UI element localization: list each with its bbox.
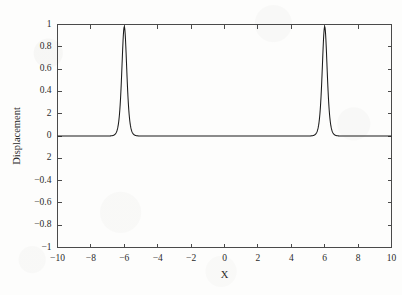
y-tick-label: −1: [41, 243, 51, 253]
y-tick-label: 2: [47, 154, 52, 164]
x-tick-label: 2: [256, 254, 261, 264]
y-tick-label: 2: [47, 109, 52, 119]
y-tick-label: −0.8: [34, 220, 51, 230]
figure-canvas: 10.80.60.4202−0.4−0.6−0.8−1−10−8−6−4−202…: [0, 0, 402, 295]
y-tick-label: −0.4: [34, 176, 51, 186]
y-tick-label: 0.4: [40, 87, 52, 97]
x-tick-label: −10: [50, 254, 65, 264]
x-tick-label: 6: [322, 254, 327, 264]
x-tick-label: 8: [356, 254, 361, 264]
x-tick-label: −2: [186, 254, 196, 264]
x-tick-label: −4: [153, 254, 163, 264]
y-tick-label: −0.6: [34, 198, 51, 208]
x-tick-label: 0: [222, 254, 227, 264]
x-axis-title: X: [221, 270, 229, 281]
y-axis-title: Displacement: [12, 107, 23, 165]
plot-svg: [0, 0, 402, 295]
x-tick-label: 10: [387, 254, 397, 264]
x-tick-label: 4: [289, 254, 294, 264]
displacement-curve: [58, 27, 392, 136]
y-tick-label: 1: [47, 20, 52, 30]
data-series-group: [58, 27, 392, 136]
y-tick-label: 0.6: [40, 64, 52, 74]
x-tick-label: −8: [86, 254, 96, 264]
x-tick-label: −6: [119, 254, 129, 264]
y-tick-label: 0.8: [40, 42, 52, 52]
y-tick-label: 0: [47, 131, 52, 141]
